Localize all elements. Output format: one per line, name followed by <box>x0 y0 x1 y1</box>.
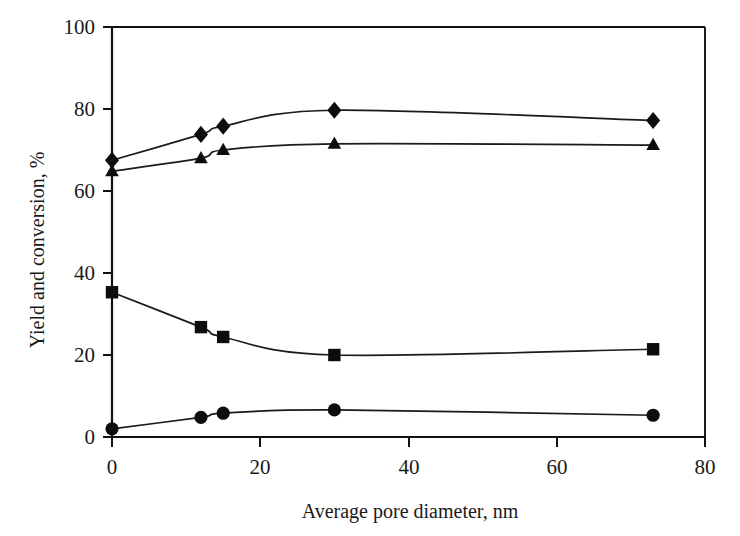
data-point-circle <box>194 411 207 424</box>
y-axis-tick-labels: 100 80 60 40 20 0 <box>64 15 96 449</box>
plot-canvas: 100 80 60 40 20 0 0 20 40 60 80 Average … <box>0 0 740 536</box>
x-axis-title: Average pore diameter, nm <box>302 500 519 523</box>
data-series-layer <box>105 102 660 436</box>
x-tick-label-60: 60 <box>547 455 568 479</box>
series-1-diamond <box>105 102 660 169</box>
data-point-square <box>195 321 207 333</box>
x-tick-label-40: 40 <box>399 455 420 479</box>
y-tick-label-80: 80 <box>74 97 95 121</box>
data-point-diamond <box>194 126 208 143</box>
data-point-circle <box>105 422 118 435</box>
series-1-line <box>112 110 653 160</box>
series-4-line <box>112 410 653 429</box>
x-tick-label-0: 0 <box>107 455 118 479</box>
series-2-line <box>112 144 653 172</box>
chart-figure: 100 80 60 40 20 0 0 20 40 60 80 Average … <box>0 0 740 536</box>
data-point-triangle <box>646 138 660 150</box>
series-3-line <box>112 292 653 355</box>
data-point-square <box>217 331 229 343</box>
data-point-circle <box>328 403 341 416</box>
y-axis-ticks <box>103 27 112 437</box>
data-point-diamond <box>646 112 660 129</box>
x-tick-label-20: 20 <box>250 455 271 479</box>
series-3-square <box>106 286 660 361</box>
y-tick-label-60: 60 <box>74 179 95 203</box>
data-point-diamond <box>327 102 341 119</box>
data-point-square <box>328 349 340 361</box>
data-point-diamond <box>216 118 230 135</box>
y-tick-label-40: 40 <box>74 261 95 285</box>
series-2-triangle <box>105 137 660 177</box>
x-axis-ticks <box>112 437 705 447</box>
y-tick-label-100: 100 <box>64 15 96 39</box>
x-axis-tick-labels: 0 20 40 60 80 <box>107 455 716 479</box>
plot-frame <box>112 27 705 437</box>
y-axis-title: Yield and conversion, % <box>26 152 48 349</box>
series-4-circle <box>105 403 659 435</box>
y-tick-label-20: 20 <box>74 343 95 367</box>
data-point-triangle <box>328 137 342 149</box>
y-tick-label-0: 0 <box>85 425 96 449</box>
data-point-circle <box>647 409 660 422</box>
data-point-square <box>647 343 659 355</box>
data-point-circle <box>217 407 230 420</box>
x-tick-label-80: 80 <box>695 455 716 479</box>
data-point-square <box>106 286 118 298</box>
